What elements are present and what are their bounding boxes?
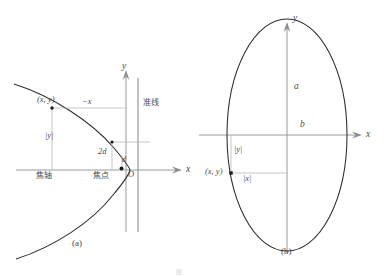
panel-a-y-axis: [123, 70, 130, 232]
panel-a-curve-point-2d: [110, 140, 113, 143]
panel-b-semi-minor-label: b: [300, 120, 305, 130]
panel-b-x-axis-label: x: [366, 130, 370, 140]
panel-b-caption: (b): [281, 246, 292, 256]
panel-b-y-axis-label: y: [293, 14, 297, 24]
panel-b-ellipse: [199, 19, 362, 253]
panel-a-origin-label: O: [128, 170, 134, 179]
panel-a-directrix-label: 准线: [143, 99, 159, 107]
panel-a-caption: (a): [72, 238, 82, 248]
panel-a-two-d-label: 2d: [98, 147, 107, 156]
panel-a-neg-x-label: −x: [82, 97, 92, 106]
panel-b-x-axis: [199, 132, 362, 139]
panel-a-y-axis-label: y: [122, 62, 126, 72]
panel-b-point-label: (x, y): [205, 167, 222, 176]
panel-a-d-label: d: [122, 156, 126, 164]
panel-b-point-marker: [229, 171, 232, 174]
panel-b-semi-major-label: a: [294, 82, 299, 92]
figure-caption: 图: [176, 267, 182, 276]
panel-a-abs-y-label: |y|: [45, 131, 53, 140]
panel-a-x-axis-label: x: [186, 165, 190, 175]
panel-b-abs-y-label: |y|: [234, 145, 242, 154]
panel-a-parabola-curve: [14, 84, 130, 259]
panel-a-point-label: (x, y): [37, 95, 54, 104]
panel-a-focus-label: 焦点: [93, 172, 109, 180]
panel-b-y-axis: [284, 22, 291, 253]
panel-a-focal-axis-label: 焦轴: [36, 172, 52, 180]
panel-b-abs-x-label: |x|: [243, 174, 251, 183]
panel-a-point-marker: [50, 106, 53, 109]
panel-a-focus-marker: [120, 167, 124, 171]
